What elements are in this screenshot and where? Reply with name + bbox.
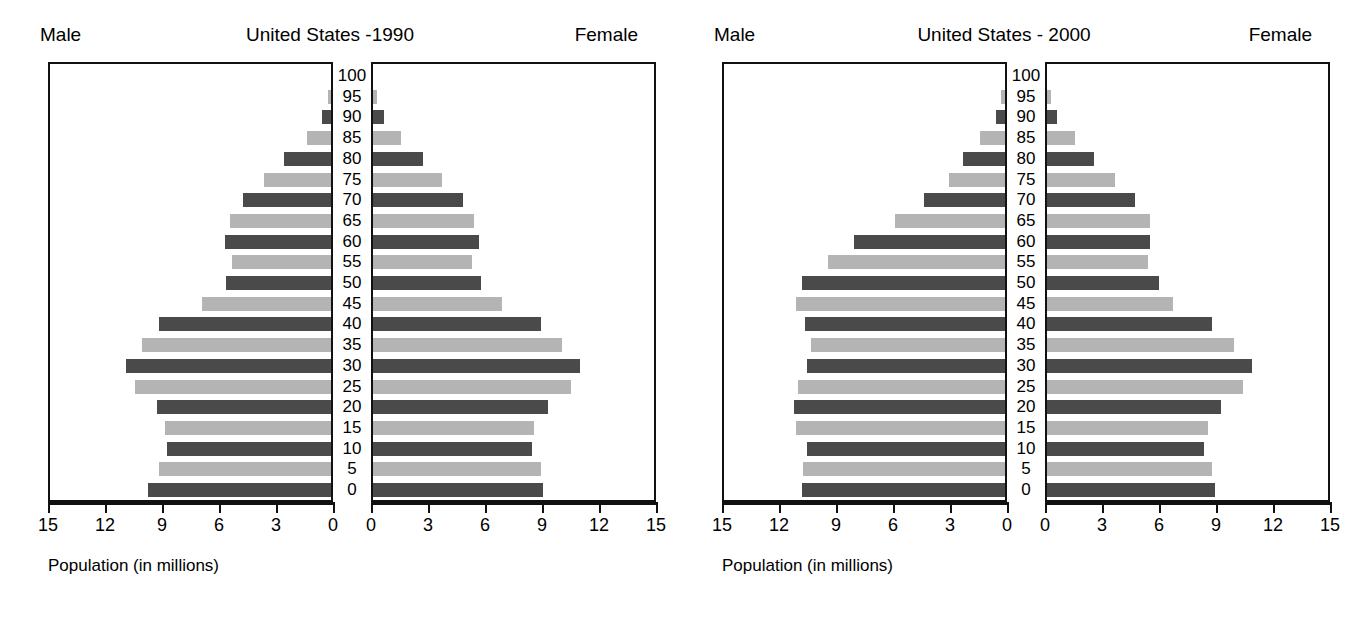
age-tick-label-80: 80 bbox=[1007, 150, 1045, 167]
bar-male-age-15 bbox=[796, 421, 1005, 435]
bar-male-age-45 bbox=[796, 297, 1005, 311]
age-tick-label-50: 50 bbox=[333, 274, 371, 291]
bar-female-age-95 bbox=[1047, 90, 1051, 104]
x-tick-label-female-12: 12 bbox=[1256, 515, 1290, 536]
age-tick-label-0: 0 bbox=[333, 481, 371, 498]
x-tick-label-female-3: 3 bbox=[1085, 515, 1119, 536]
bar-male-age-50 bbox=[802, 276, 1005, 290]
bar-female-age-45 bbox=[373, 297, 502, 311]
x-tick-label-female-0: 0 bbox=[1028, 515, 1062, 536]
bar-male-age-70 bbox=[243, 193, 331, 207]
chart-title-2000: United States - 2000 bbox=[674, 24, 1334, 46]
chart-title-1990: United States -1990 bbox=[0, 24, 660, 46]
age-tick-label-80: 80 bbox=[333, 150, 371, 167]
age-tick-label-100: 100 bbox=[333, 67, 371, 84]
x-tick-label-female-6: 6 bbox=[1142, 515, 1176, 536]
bar-male-age-35 bbox=[811, 338, 1005, 352]
x-tick-female-0 bbox=[1045, 502, 1047, 513]
bar-female-age-30 bbox=[1047, 359, 1252, 373]
age-tick-label-35: 35 bbox=[333, 336, 371, 353]
age-tick-label-60: 60 bbox=[1007, 233, 1045, 250]
bar-female-age-90 bbox=[1047, 110, 1057, 124]
age-tick-label-65: 65 bbox=[333, 212, 371, 229]
female-bars-2000 bbox=[1047, 64, 1328, 500]
bar-male-age-90 bbox=[996, 110, 1005, 124]
x-tick-male-0 bbox=[333, 502, 335, 513]
bar-female-age-25 bbox=[1047, 380, 1243, 394]
female-plot-area-1990 bbox=[371, 62, 656, 502]
x-tick-label-male-12: 12 bbox=[762, 515, 796, 536]
bar-male-age-85 bbox=[307, 131, 331, 145]
panel-header-1990: Male United States -1990 Female bbox=[0, 24, 660, 50]
x-tick-male-6 bbox=[219, 502, 221, 513]
bar-female-age-10 bbox=[373, 442, 532, 456]
bar-female-age-85 bbox=[1047, 131, 1075, 145]
bar-female-age-0 bbox=[373, 483, 543, 497]
age-tick-label-35: 35 bbox=[1007, 336, 1045, 353]
x-axis-title-2000: Population (in millions) bbox=[722, 556, 893, 576]
bar-male-age-40 bbox=[159, 317, 331, 331]
x-tick-label-male-6: 6 bbox=[876, 515, 910, 536]
age-tick-label-30: 30 bbox=[1007, 357, 1045, 374]
bar-male-age-20 bbox=[794, 400, 1005, 414]
x-tick-label-male-15: 15 bbox=[31, 515, 65, 536]
age-tick-label-55: 55 bbox=[1007, 253, 1045, 270]
population-pyramid-figure: Male United States -1990 Female 10095908… bbox=[0, 0, 1346, 620]
female-label-1990: Female bbox=[575, 24, 638, 46]
bar-male-age-10 bbox=[807, 442, 1005, 456]
x-tick-female-12 bbox=[599, 502, 601, 513]
bar-female-age-35 bbox=[1047, 338, 1234, 352]
x-tick-label-male-15: 15 bbox=[705, 515, 739, 536]
bar-female-age-40 bbox=[1047, 317, 1212, 331]
x-tick-label-female-15: 15 bbox=[1313, 515, 1346, 536]
bar-male-age-95 bbox=[328, 90, 331, 104]
female-bars-1990 bbox=[373, 64, 654, 500]
bar-male-age-15 bbox=[165, 421, 331, 435]
x-tick-female-6 bbox=[1159, 502, 1161, 513]
bar-female-age-80 bbox=[1047, 152, 1094, 166]
bar-female-age-30 bbox=[373, 359, 580, 373]
age-tick-label-50: 50 bbox=[1007, 274, 1045, 291]
bar-female-age-10 bbox=[1047, 442, 1204, 456]
bar-male-age-40 bbox=[805, 317, 1005, 331]
bar-female-age-70 bbox=[373, 193, 463, 207]
x-tick-male-12 bbox=[779, 502, 781, 513]
age-tick-label-70: 70 bbox=[1007, 191, 1045, 208]
bar-male-age-5 bbox=[803, 462, 1005, 476]
bar-male-age-30 bbox=[807, 359, 1005, 373]
x-tick-label-male-9: 9 bbox=[819, 515, 853, 536]
x-axis-title-1990: Population (in millions) bbox=[48, 556, 219, 576]
age-tick-label-90: 90 bbox=[333, 108, 371, 125]
x-tick-male-9 bbox=[162, 502, 164, 513]
bar-male-age-30 bbox=[126, 359, 331, 373]
panel-us-1990: Male United States -1990 Female 10095908… bbox=[0, 0, 672, 620]
bar-female-age-25 bbox=[373, 380, 571, 394]
bar-male-age-55 bbox=[828, 255, 1005, 269]
bar-female-age-60 bbox=[1047, 235, 1150, 249]
bar-male-age-95 bbox=[1001, 90, 1005, 104]
male-bars-2000 bbox=[724, 64, 1005, 500]
age-tick-label-90: 90 bbox=[1007, 108, 1045, 125]
x-tick-label-female-3: 3 bbox=[411, 515, 445, 536]
panel-us-2000: Male United States - 2000 Female 1009590… bbox=[674, 0, 1346, 620]
age-tick-label-55: 55 bbox=[333, 253, 371, 270]
x-tick-label-female-15: 15 bbox=[639, 515, 673, 536]
bar-female-age-85 bbox=[373, 131, 401, 145]
x-tick-label-female-9: 9 bbox=[1199, 515, 1233, 536]
x-axis-line-male bbox=[722, 502, 1007, 505]
male-bars-1990 bbox=[50, 64, 331, 500]
age-axis-1990: 1009590858075706560555045403530252015105… bbox=[333, 60, 371, 506]
x-axis-line-female bbox=[371, 502, 656, 505]
bar-male-age-90 bbox=[322, 110, 331, 124]
bar-female-age-75 bbox=[1047, 173, 1115, 187]
age-tick-label-25: 25 bbox=[1007, 378, 1045, 395]
bar-female-age-15 bbox=[373, 421, 534, 435]
bar-male-age-65 bbox=[230, 214, 331, 228]
bar-female-age-20 bbox=[373, 400, 548, 414]
x-tick-label-female-6: 6 bbox=[468, 515, 502, 536]
age-tick-label-75: 75 bbox=[333, 171, 371, 188]
male-plot-area-1990 bbox=[48, 62, 333, 502]
x-tick-label-male-6: 6 bbox=[202, 515, 236, 536]
bar-male-age-20 bbox=[157, 400, 331, 414]
age-tick-label-95: 95 bbox=[1007, 88, 1045, 105]
